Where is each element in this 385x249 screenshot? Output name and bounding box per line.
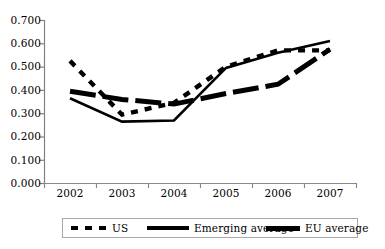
legend-item-us: US [71, 219, 128, 237]
chart-legend: US Emerging average EU average [62, 218, 358, 238]
y-tick-label-0300: 0.300 [0, 108, 41, 118]
solid-line-swatch-icon [147, 226, 189, 230]
series-line-us [70, 50, 330, 114]
y-tick-label-0500: 0.500 [0, 61, 41, 71]
y-tick-label-0600: 0.600 [0, 38, 41, 48]
x-tick-label-2006: 2006 [252, 188, 304, 199]
x-tick-label-2002: 2002 [44, 188, 96, 199]
plot-area [0, 0, 385, 249]
x-tick-label-2004: 2004 [148, 188, 200, 199]
x-tick-label-2005: 2005 [200, 188, 252, 199]
line-chart-figure: 0.700 0.600 0.500 0.400 0.300 0.200 0.10… [0, 0, 385, 249]
y-tick-label-0700: 0.700 [0, 15, 41, 25]
x-tick-label-2007: 2007 [304, 188, 356, 199]
y-tick-label-0400: 0.400 [0, 85, 41, 95]
legend-label-eu-average: EU average [305, 223, 368, 234]
y-tick-label-0000: 0.000 [0, 178, 41, 188]
dotted-line-swatch-icon [71, 226, 107, 230]
legend-item-eu-average: EU average [266, 219, 368, 237]
thick-line-swatch-icon [266, 226, 300, 231]
series-line-emerging-average [70, 41, 330, 122]
y-tick-label-0100: 0.100 [0, 155, 41, 165]
x-tick-label-2003: 2003 [96, 188, 148, 199]
legend-label-us: US [112, 223, 128, 234]
y-tick-label-0200: 0.200 [0, 131, 41, 141]
